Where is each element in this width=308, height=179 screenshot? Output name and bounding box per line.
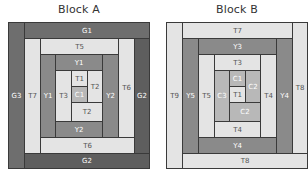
piece-y3: Y3 [198, 38, 277, 55]
piece-label: T6 [122, 84, 131, 92]
piece-label: T4 [233, 126, 242, 134]
piece-t6-bottom: T6 [40, 137, 135, 154]
block-a-title: Block A [29, 3, 129, 16]
piece-t4-bottom: T4 [214, 121, 261, 138]
piece-label: T7 [233, 27, 242, 35]
piece-label: Y2 [106, 92, 115, 100]
piece-y2-right: Y2 [102, 54, 119, 138]
piece-t2-right: T2 [87, 70, 103, 103]
piece-t1: T1 [229, 86, 246, 103]
piece-t5: T5 [40, 38, 119, 55]
piece-label: Y4 [280, 92, 289, 100]
piece-label: Y3 [233, 43, 242, 51]
piece-y5: Y5 [182, 38, 199, 154]
piece-t6-right: T6 [118, 38, 135, 138]
piece-label: Y2 [75, 126, 84, 134]
piece-c1: C1 [229, 70, 246, 87]
piece-label: G3 [12, 92, 22, 100]
piece-label: G1 [82, 27, 92, 35]
piece-label: Y4 [233, 142, 242, 150]
piece-label: T4 [264, 92, 273, 100]
piece-label: T6 [83, 142, 92, 150]
block-a: G3 G1 G2 G2 T7 T5 T6 T6 Y1 Y1 Y2 Y2 T3 T… [8, 22, 150, 169]
piece-label: G2 [137, 92, 147, 100]
piece-label: C3 [217, 92, 226, 100]
piece-y4-bottom: Y4 [198, 137, 277, 154]
piece-label: Y1 [44, 92, 53, 100]
piece-t1: T1 [71, 70, 88, 87]
piece-label: Y1 [75, 59, 84, 67]
piece-label: T2 [91, 83, 100, 91]
piece-label: C1 [233, 75, 242, 83]
piece-label: T1 [233, 91, 242, 99]
piece-g1: G1 [24, 22, 150, 39]
piece-label: T5 [75, 43, 84, 51]
piece-label: T2 [83, 108, 92, 116]
piece-t2-bottom: T2 [71, 102, 103, 122]
piece-c3: C3 [214, 70, 230, 122]
piece-t7: T7 [182, 22, 293, 39]
piece-label: C1 [75, 91, 84, 99]
piece-label: T8 [296, 84, 305, 92]
piece-t3: T3 [214, 54, 261, 71]
piece-label: C2 [248, 83, 257, 91]
piece-label: T8 [241, 157, 250, 165]
piece-label: T9 [170, 92, 179, 100]
piece-t8-bottom: T8 [182, 153, 308, 169]
piece-label: C2 [240, 108, 249, 116]
block-b: T9 T7 T8 T8 Y5 Y3 Y4 Y4 T5 T3 T4 T4 C3 C… [166, 22, 308, 169]
piece-c2-right: C2 [245, 70, 261, 103]
piece-label: T3 [233, 59, 242, 67]
piece-g2-right: G2 [134, 38, 150, 154]
piece-label: Y5 [186, 92, 195, 100]
piece-label: T1 [75, 75, 84, 83]
piece-label: T5 [202, 92, 211, 100]
piece-t5: T5 [198, 54, 215, 138]
piece-c2-bottom: C2 [229, 102, 261, 122]
piece-t9: T9 [166, 22, 183, 169]
piece-label: T7 [28, 92, 37, 100]
piece-t8-right: T8 [292, 22, 308, 154]
piece-t7: T7 [24, 38, 41, 154]
piece-y4-right: Y4 [276, 38, 293, 154]
piece-t4-right: T4 [260, 54, 277, 138]
piece-y1-left: Y1 [40, 54, 56, 138]
piece-label: T3 [59, 92, 68, 100]
block-b-title: Block B [187, 3, 287, 16]
piece-label: G2 [82, 157, 92, 165]
piece-t3: T3 [55, 70, 72, 122]
piece-y2-bottom: Y2 [55, 121, 103, 138]
piece-y1-top: Y1 [55, 54, 103, 71]
piece-g2-bottom: G2 [24, 153, 150, 169]
piece-c1: C1 [71, 86, 88, 103]
piece-g3: G3 [8, 22, 25, 169]
